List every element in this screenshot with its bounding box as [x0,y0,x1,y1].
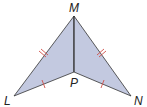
label-m: M [69,1,79,15]
label-p: P [70,76,78,90]
label-l: L [4,94,11,107]
triangle-lmp [14,16,74,96]
kite-diagram: M P L N [0,0,147,107]
label-n: N [134,94,143,107]
